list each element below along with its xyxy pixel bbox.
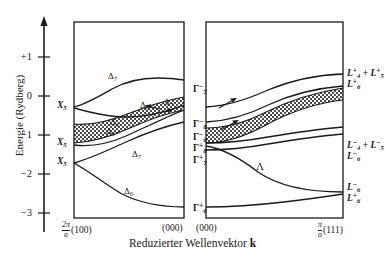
l5minus-sub: 5	[381, 144, 384, 151]
right-label-lambda: Λ	[256, 161, 264, 172]
x-axis-title-text: Reduzierter Wellenvektor	[129, 237, 250, 249]
delta6-arrow-sub: 6	[146, 104, 149, 111]
right-point-l6plus-lower: L+6	[347, 192, 360, 205]
gamma7minus-sub: 7	[203, 88, 206, 95]
x-axis-title: Reduzierter Wellenvektor k	[0, 238, 385, 250]
band-structure-figure: Energie (Rydberg) +1 0 −1 −2 −3 X5 X5 X5…	[0, 0, 385, 262]
left-label-delta6-lowest: Δ6	[124, 187, 133, 197]
right-kpoint-end-fraction: π a	[318, 221, 322, 239]
right-band-gamma6plus	[206, 194, 343, 207]
y-tick-minus1: −1	[6, 130, 32, 141]
right-hatched-region	[206, 88, 343, 143]
right-point-gamma6plus: Γ+6	[193, 202, 207, 215]
l6plus-upper-sub: 6	[357, 83, 360, 90]
right-point-gamma7plus: Γ+7	[193, 154, 207, 167]
delta7-upper-sub: 7	[114, 75, 117, 82]
delta7-valence-sub: 7	[138, 153, 141, 160]
right-point-gamma7minus: Γ−7	[193, 83, 207, 96]
y-axis	[38, 16, 50, 232]
delta6-lowest-sub: 6	[130, 190, 133, 197]
right-point-l6minus-upper: L−6	[347, 150, 360, 163]
right-panel-bands	[206, 74, 343, 207]
gamma7plus-sub: 7	[203, 159, 206, 166]
left-kpoint-start-numerator: 2π	[62, 221, 70, 229]
x5-upper-sub: 5	[63, 104, 66, 111]
left-label-delta7-upper: Δ7	[108, 72, 117, 82]
left-point-x5-upper: X5	[57, 101, 67, 112]
gamma6plus-sub: 6	[203, 207, 206, 214]
y-tick-minus2: −2	[6, 169, 32, 180]
left-point-x5-lower: X5	[57, 157, 67, 168]
right-band-lambda	[206, 146, 343, 192]
delta6-edge-sub: 6	[116, 121, 119, 128]
left-label-delta7-arrow: Δ7	[164, 98, 173, 108]
y-tick-zero: 0	[6, 91, 32, 102]
right-kpoint-end-numerator: π	[318, 221, 322, 229]
l6plus-lower-sub: 6	[357, 197, 360, 204]
y-tick-minus3: −3	[6, 208, 32, 219]
left-kpoint-end: (000)	[162, 224, 183, 234]
delta7-arrow-sub: 7	[170, 101, 173, 108]
left-label-delta6-arrow: Δ6	[140, 101, 149, 111]
l5plus-sub: 5	[381, 72, 384, 79]
y-tick-plus1: +1	[6, 52, 32, 63]
left-kpoint-start-point: (100)	[71, 225, 92, 235]
left-label-delta7-valence: Δ7	[132, 150, 141, 160]
right-kpoint-end: π a (111)	[318, 221, 343, 239]
x-axis-title-k: k	[250, 237, 256, 249]
left-kpoint-start: 2π a (100)	[62, 221, 92, 239]
left-band-delta6-lowest	[74, 163, 184, 207]
x5-lower-sub: 5	[63, 160, 66, 167]
right-kpoint-end-point: (111)	[323, 225, 343, 235]
left-label-delta6-hatched: Δ6	[106, 127, 115, 137]
right-kpoint-start: (000)	[196, 224, 217, 234]
gamma8minus-sub: 8	[203, 123, 206, 130]
delta6-hatched-sub: 6	[112, 130, 115, 137]
right-point-l6plus-upper: L+6	[347, 78, 360, 91]
l6minus-upper-sub: 6	[357, 155, 360, 162]
left-kpoint-start-fraction: 2π a	[62, 221, 70, 239]
left-point-x5-middle: X5	[57, 138, 67, 149]
x5-middle-sub: 5	[63, 141, 66, 148]
